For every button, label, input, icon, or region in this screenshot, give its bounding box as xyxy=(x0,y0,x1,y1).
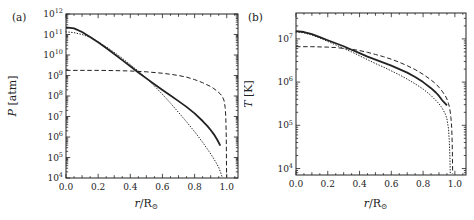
x-axis-label: r/R⊙ xyxy=(135,197,159,211)
x-tick-label: 0.2 xyxy=(321,179,335,189)
curve-solid-curve xyxy=(66,27,220,145)
curve-solid-curve xyxy=(296,31,447,105)
curve-dotted-curve xyxy=(296,32,450,174)
chart-b: 0.00.20.40.60.81.0104105106107(b)T [K]r/… xyxy=(244,0,474,220)
y-tick-label: 1012 xyxy=(43,7,63,19)
x-tick-label: 0.0 xyxy=(289,179,304,189)
y-tick-label: 107 xyxy=(47,110,63,122)
y-tick-label: 105 xyxy=(277,119,293,131)
y-tick-label: 108 xyxy=(47,89,63,101)
x-axis-label: r/R⊙ xyxy=(364,197,388,211)
x-tick-label: 1.0 xyxy=(448,179,463,189)
x-tick-label: 1.0 xyxy=(220,182,235,192)
y-tick-label: 1010 xyxy=(43,48,63,60)
x-tick-label: 0.0 xyxy=(59,182,74,192)
two-panel-log-chart-figure: 0.00.20.40.60.81.01041051061071081091010… xyxy=(0,0,474,220)
y-axis-label: P [atm] xyxy=(6,76,19,118)
curve-dashed-curve xyxy=(296,47,453,174)
x-tick-label: 0.6 xyxy=(155,182,170,192)
y-tick-label: 1011 xyxy=(43,28,63,40)
y-tick-label: 106 xyxy=(277,75,293,87)
y-tick-label: 109 xyxy=(47,69,63,81)
x-tick-label: 0.4 xyxy=(123,182,138,192)
x-tick-label: 0.2 xyxy=(91,182,105,192)
y-tick-label: 107 xyxy=(277,32,293,44)
y-tick-label: 106 xyxy=(47,130,63,142)
y-axis-label: T [K] xyxy=(244,80,255,108)
panel-label: (a) xyxy=(12,11,26,23)
curve-dotted-curve xyxy=(66,32,222,178)
panel-b: 0.00.20.40.60.81.0104105106107(b)T [K]r/… xyxy=(244,0,474,220)
x-tick-label: 0.4 xyxy=(352,179,367,189)
x-tick-label: 0.8 xyxy=(187,182,202,192)
chart-a: 0.00.20.40.60.81.01041051061071081091010… xyxy=(0,0,244,220)
y-tick-label: 105 xyxy=(47,151,63,163)
panel-a: 0.00.20.40.60.81.01041051061071081091010… xyxy=(0,0,244,220)
curve-dashed-curve xyxy=(66,70,227,177)
x-tick-label: 0.8 xyxy=(416,179,431,189)
y-tick-label: 104 xyxy=(277,162,293,174)
panel-label: (b) xyxy=(248,11,263,23)
x-tick-label: 0.6 xyxy=(384,179,399,189)
